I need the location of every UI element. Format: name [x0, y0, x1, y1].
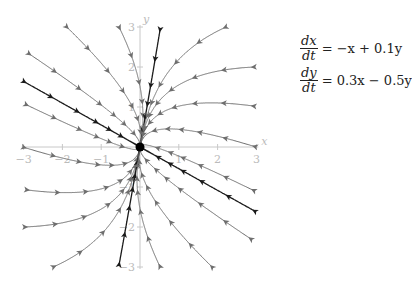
arrow-icon — [250, 103, 257, 110]
arrow-icon — [117, 132, 125, 140]
arrow-icon — [75, 84, 83, 92]
arrow-icon — [50, 114, 58, 122]
arrow-icon — [24, 187, 31, 194]
arrow-icon — [93, 133, 101, 141]
denominator: dt — [302, 49, 316, 63]
arrow-icon — [224, 192, 232, 200]
arrow-icon — [196, 200, 204, 208]
arrow-icon — [20, 78, 28, 86]
arrow-icon — [156, 81, 164, 89]
y-tick-label: 3 — [128, 21, 135, 34]
arrow-icon — [127, 52, 135, 60]
x-axis-label: x — [261, 135, 268, 148]
arrow-icon — [152, 198, 160, 206]
arrow-icon — [22, 224, 28, 230]
numerator: dx — [300, 34, 318, 49]
equilibrium-point — [136, 143, 145, 152]
arrow-icon — [221, 23, 229, 31]
trajectory — [140, 145, 255, 191]
arrow-icon — [47, 93, 55, 101]
arrow-icon — [75, 125, 83, 133]
arrow-icon — [50, 67, 58, 75]
arrow-icon — [50, 263, 58, 271]
numerator: dy — [300, 66, 318, 81]
phase-portrait: −3−2−1123321−1−2−3xy — [0, 0, 290, 287]
arrow-icon — [119, 87, 127, 95]
arrow-icon — [76, 248, 84, 256]
x-tick-label: −3 — [15, 153, 31, 166]
arrow-icon — [103, 184, 111, 192]
fraction-dy-dt: dy dt — [300, 66, 318, 95]
arrow-icon — [221, 218, 229, 226]
arrow-icon — [105, 125, 113, 133]
y-axis-label: y — [142, 13, 150, 26]
y-tick-label: 1 — [128, 101, 135, 114]
arrow-icon — [197, 162, 205, 170]
trajectory — [25, 104, 140, 149]
trajectory — [119, 27, 143, 147]
arrow-icon — [166, 160, 174, 168]
arrow-icon — [136, 79, 143, 86]
arrow-icon — [154, 144, 162, 152]
arrow-icon — [22, 101, 30, 109]
trajectory — [140, 147, 252, 240]
denominator: dt — [302, 81, 316, 95]
arrow-icon — [198, 177, 206, 185]
equation-rhs: = −x + 0.1y — [322, 41, 402, 56]
arrow-icon — [222, 173, 230, 181]
arrow-icon — [121, 160, 128, 167]
arrow-icon — [156, 262, 164, 270]
equation-rhs: = 0.3x − 0.5y — [322, 73, 412, 88]
arrow-icon — [73, 107, 81, 115]
x-tick-label: 3 — [253, 153, 260, 166]
fraction-dx-dt: dx dt — [300, 34, 318, 63]
arrow-icon — [176, 185, 184, 193]
x-tick-label: 2 — [214, 153, 221, 166]
arrow-icon — [167, 149, 175, 157]
arrow-icon — [191, 74, 199, 82]
arrow-icon — [96, 100, 104, 108]
arrow-icon — [92, 118, 100, 126]
arrow-icon — [179, 167, 187, 175]
arrow-icon — [143, 183, 151, 191]
trajectory — [140, 103, 255, 147]
arrow-icon — [106, 138, 114, 146]
equation-dx-dt: dx dt = −x + 0.1y — [300, 34, 402, 63]
arrow-icon — [80, 213, 88, 221]
arrow-icon — [115, 206, 123, 214]
arrow-icon — [144, 235, 152, 243]
arrow-icon — [250, 186, 258, 194]
arrow-icon — [171, 104, 178, 111]
arrow-icon — [151, 127, 158, 134]
arrow-icon — [115, 24, 123, 32]
arrow-icon — [154, 153, 162, 161]
arrow-icon — [251, 207, 259, 215]
equation-dy-dt: dy dt = 0.3x − 0.5y — [300, 66, 412, 95]
arrow-icon — [247, 235, 255, 243]
arrow-icon — [167, 86, 175, 94]
arrow-icon — [156, 110, 164, 118]
trajectory — [28, 53, 140, 147]
arrow-icon — [195, 38, 203, 46]
arrow-icon — [25, 50, 33, 58]
arrow-icon — [251, 64, 257, 70]
arrow-icon — [222, 135, 229, 142]
